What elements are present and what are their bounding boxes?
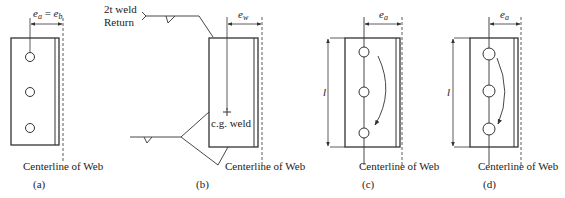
bolt-hole [359, 47, 369, 57]
panel-b: ew c.g. weld 2t weld Return Centerline o… [104, 3, 306, 191]
centerline-label: Centerline of Web [359, 160, 440, 172]
panel-caption: (c) [362, 178, 375, 191]
centerline-label: Centerline of Web [478, 160, 559, 172]
connection-eccentricity-diagram: ea = eb Centerline of Web (a) ew c.g. we… [0, 0, 565, 198]
fillet-weld-symbol-icon [166, 16, 175, 23]
bolt-hole [483, 48, 495, 60]
rotation-arrow-icon [497, 58, 505, 124]
panel-d: ea l Centerline of Web (d) [447, 8, 559, 191]
bolt-hole [359, 128, 369, 138]
bolt-hole [26, 124, 35, 133]
fillet-weld-symbol-icon [144, 137, 152, 143]
bolt-hole [483, 123, 495, 135]
bolt-hole [26, 88, 35, 97]
angle-plate [209, 38, 258, 147]
dimension-label: ea = eb [33, 7, 63, 21]
dimension-label: ea [379, 8, 388, 22]
length-label: l [447, 86, 450, 98]
top-weld-leader [146, 16, 213, 37]
centerline-label: Centerline of Web [23, 160, 104, 172]
bottom-weld-leader-upper [181, 112, 209, 137]
weld-return-label-line1: 2t weld [104, 3, 137, 15]
dimension-label: ew [238, 8, 249, 22]
panel-c: ea l Centerline of Web (c) [323, 8, 440, 191]
cg-weld-label: c.g. weld [211, 117, 252, 129]
rotation-arrow-icon [375, 56, 386, 125]
bolt-hole [483, 85, 495, 97]
bottom-weld-leader-lower [181, 137, 228, 165]
angle-plate [11, 38, 59, 145]
angle-plate [345, 38, 400, 147]
bolt-hole [26, 53, 35, 62]
length-label: l [323, 86, 326, 98]
bolt-hole [359, 87, 369, 97]
panel-caption: (b) [196, 178, 209, 191]
dimension-label: ea [500, 8, 509, 22]
weld-return-label-line2: Return [104, 16, 134, 28]
panel-caption: (d) [483, 178, 496, 191]
centerline-label: Centerline of Web [225, 160, 306, 172]
panel-a: ea = eb Centerline of Web (a) [11, 7, 104, 191]
weld-tail-icon [142, 12, 146, 20]
panel-caption: (a) [33, 178, 46, 191]
